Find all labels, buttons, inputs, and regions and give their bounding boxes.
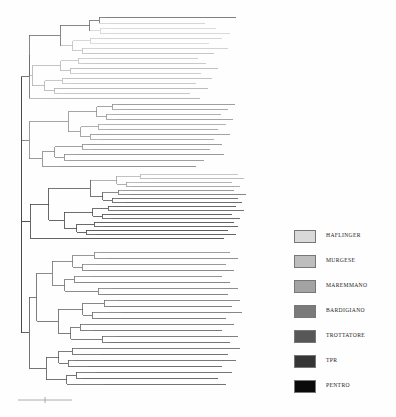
legend-swatch-haflinger — [294, 230, 316, 243]
scale-bar — [18, 396, 72, 404]
legend-label-murgese: MURGESE — [326, 258, 355, 264]
legend-swatch-murgese — [294, 255, 316, 268]
legend-swatch-tpr — [294, 355, 316, 368]
legend-label-pentro: PENTRO — [326, 383, 350, 389]
legend-label-bardigiano: BARDIGIANO — [326, 308, 365, 314]
legend-swatch-trottatore — [294, 330, 316, 343]
legend-swatch-maremmano — [294, 280, 316, 293]
phylogenetic-tree-figure: HAFLINGER MURGESE MAREMMANO BARDIGIANO T… — [0, 0, 396, 417]
legend-label-trottatore: TROTTATORE — [326, 333, 365, 339]
tree-svg — [0, 0, 280, 417]
legend-item-bardigiano[interactable]: BARDIGIANO — [294, 304, 365, 318]
legend: HAFLINGER MURGESE MAREMMANO BARDIGIANO T… — [294, 229, 394, 397]
legend-swatch-bardigiano — [294, 305, 316, 318]
legend-item-haflinger[interactable]: HAFLINGER — [294, 229, 361, 243]
legend-item-murgese[interactable]: MURGESE — [294, 254, 355, 268]
legend-label-maremmano: MAREMMANO — [326, 283, 367, 289]
legend-item-pentro[interactable]: PENTRO — [294, 379, 350, 393]
tree-tip-branches — [55, 17, 246, 384]
legend-item-tpr[interactable]: TPR — [294, 354, 337, 368]
legend-label-haflinger: HAFLINGER — [326, 233, 361, 239]
legend-item-maremmano[interactable]: MAREMMANO — [294, 279, 367, 293]
legend-item-trottatore[interactable]: TROTTATORE — [294, 329, 365, 343]
tree-branches — [21, 17, 152, 384]
tree-panel — [0, 0, 280, 417]
legend-label-tpr: TPR — [326, 358, 337, 364]
legend-swatch-pentro — [294, 380, 316, 393]
